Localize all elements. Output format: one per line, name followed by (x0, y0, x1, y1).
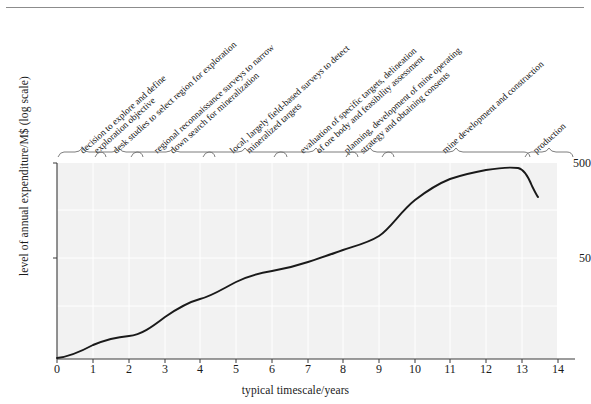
y-axis-ticks (53, 163, 57, 258)
stage-braces (58, 148, 573, 157)
brace-stage-3 (131, 148, 215, 157)
plot-svg (0, 0, 591, 404)
plot-area-background (57, 163, 557, 359)
brace-stage-8 (525, 148, 573, 157)
figure-root: level of annual expenditure/M$ (log scal… (0, 0, 591, 404)
x-axis-ticks (57, 359, 558, 363)
brace-stage-7 (382, 148, 530, 157)
